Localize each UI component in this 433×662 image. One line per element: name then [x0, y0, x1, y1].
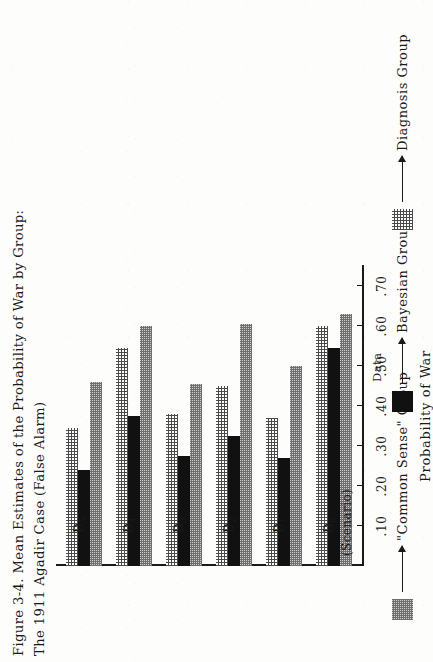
value-axis-tick: [357, 365, 364, 366]
legend-item: "Common Sense" Group: [392, 372, 413, 620]
legend-arrow-icon: [402, 546, 403, 592]
value-axis-tick-label: .10: [375, 516, 389, 537]
category-label: D3: [172, 494, 190, 556]
category-label: D5: [72, 494, 90, 556]
light-dot-halftone-swatch: [392, 209, 413, 230]
legend-arrow-icon: [402, 338, 403, 384]
figure-caption: Figure 3-4. Mean Estimates of the Probab…: [8, 56, 51, 656]
legend-arrow-icon: [402, 156, 403, 202]
value-axis-tick: [357, 325, 364, 326]
value-axis-tick: [357, 445, 364, 446]
value-axis-tick: [357, 485, 364, 486]
legend-item: Bayesian Group: [392, 221, 413, 412]
value-axis-tick: [357, 405, 364, 406]
value-axis-tick: [357, 285, 364, 286]
legend-label: Diagnosis Group: [395, 34, 410, 151]
bar: [140, 326, 152, 566]
legend-label: "Common Sense" Group: [395, 372, 410, 541]
bar: [290, 366, 302, 566]
value-axis-tick: [357, 525, 364, 526]
value-axis-tick-label: .60: [375, 316, 389, 337]
legend-label: Bayesian Group: [395, 221, 410, 333]
legend-item: Diagnosis Group: [392, 34, 413, 230]
bar: [190, 384, 202, 566]
bar: [240, 324, 252, 566]
value-axis-title: Probability of War: [418, 266, 433, 566]
value-axis-tick-label: .40: [375, 396, 389, 417]
category-label: D0(Scenario): [322, 494, 355, 556]
category-label: D4: [122, 494, 140, 556]
value-axis-tick-label: .70: [375, 276, 389, 297]
value-axis-tick-label: .20: [375, 476, 389, 497]
value-axis-tick-label: .50: [375, 356, 389, 377]
bar: [90, 382, 102, 566]
category-label: D1: [272, 494, 290, 556]
category-label: D2: [222, 494, 240, 556]
black-swatch: [392, 391, 413, 412]
value-axis-tick-label: .30: [375, 436, 389, 457]
value-axis-line: [362, 265, 364, 566]
plot-area: .10.20.30.40.50.60.70 D0(Scenario)D1D2D3…: [62, 266, 364, 566]
mid-grey-halftone-swatch: [392, 599, 413, 620]
